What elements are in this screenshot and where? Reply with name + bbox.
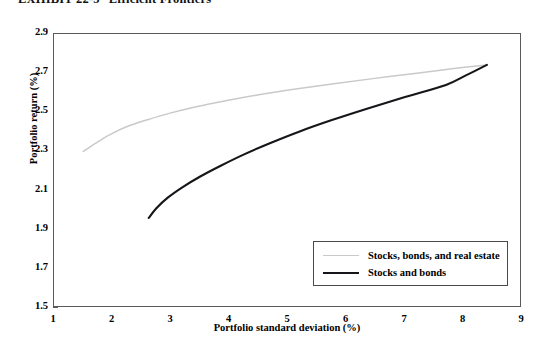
y-axis-title: Portfolio return (%) — [28, 39, 39, 199]
x-tick-label: 5 — [272, 313, 302, 324]
y-tick-label: 2.9 — [8, 26, 48, 37]
x-tick-label: 8 — [448, 313, 478, 324]
x-tick-label: 9 — [506, 313, 536, 324]
x-tick-label: 6 — [331, 313, 361, 324]
y-tick-label: 2.7 — [8, 65, 48, 76]
legend-item: Stocks, bonds, and real estate — [314, 247, 507, 264]
x-tick-label: 2 — [97, 313, 127, 324]
series-line — [83, 65, 487, 152]
x-tick-label: 7 — [389, 313, 419, 324]
y-tick-label: 2.3 — [8, 143, 48, 154]
y-tick-label: 1.9 — [8, 222, 48, 233]
legend-line-swatch — [323, 272, 359, 274]
legend-label: Stocks and bonds — [368, 267, 446, 278]
y-tick-label: 1.5 — [8, 300, 48, 311]
legend-line-swatch — [323, 255, 359, 256]
x-tick-label: 4 — [214, 313, 244, 324]
x-tick-label: 1 — [38, 313, 68, 324]
legend-label: Stocks, bonds, and real estate — [368, 250, 500, 261]
y-tick-label: 2.5 — [8, 104, 48, 115]
x-tick-label: 3 — [155, 313, 185, 324]
legend-item: Stocks and bonds — [314, 264, 507, 281]
efficient-frontiers-chart: Portfolio return (%) Portfolio standard … — [0, 0, 539, 347]
chart-legend: Stocks, bonds, and real estateStocks and… — [313, 241, 508, 286]
y-tick-label: 2.1 — [8, 183, 48, 194]
series-line — [149, 65, 487, 218]
y-tick-label: 1.7 — [8, 261, 48, 272]
